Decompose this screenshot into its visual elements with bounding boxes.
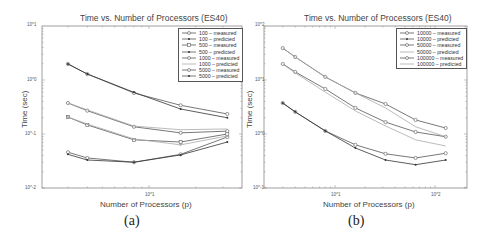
legend-item: 5000 – measured — [182, 67, 239, 73]
legend-item: 500 – measured — [182, 42, 239, 48]
chart-a-legend: 100 – measured 100 – predicted 500 – mea… — [178, 28, 243, 82]
chart-a-ytick: 10^0 — [27, 77, 37, 82]
legend-item: 10000 – predicted — [400, 36, 463, 42]
chart-a-caption: (a) — [124, 213, 140, 229]
chart-b-ytick: 10^2 — [255, 22, 265, 27]
chart-b-title: Time vs. Number of Processors (ES40) — [304, 13, 452, 23]
legend-item: 500 – predicted — [182, 49, 239, 55]
chart-a-xlabel: Number of Processors (p) — [100, 200, 192, 209]
line-marker-icon — [400, 61, 414, 67]
dot-marker-icon — [400, 36, 414, 42]
chart-a-ytick: 10^-2 — [25, 185, 36, 190]
legend-item: 50000 – predicted — [400, 49, 463, 55]
dot-marker-icon — [182, 49, 196, 55]
chart-a-xtick: 10^1 — [145, 192, 155, 197]
circle-marker-icon — [400, 55, 414, 61]
circle-marker-icon — [182, 30, 196, 36]
legend-item: 50000 – measured — [400, 42, 463, 48]
chart-b-ytick: 10^-1 — [253, 185, 264, 190]
line-marker-icon — [400, 49, 414, 55]
line-marker-icon — [182, 61, 196, 67]
chart-b-ytick: 10^0 — [255, 131, 265, 136]
legend-item: 5000 – predicted — [182, 73, 239, 79]
square-marker-icon — [182, 42, 196, 48]
chart-a-ytick: 10^-1 — [25, 131, 36, 136]
chart-a-ylabel: Time (sec) — [20, 91, 29, 128]
chart-b-xlabel: Number of Processors (p) — [323, 200, 415, 209]
legend-item: 100000 – measured — [400, 55, 463, 61]
legend-item: 100000 – predicted — [400, 61, 463, 67]
dot-marker-icon — [182, 36, 196, 42]
circle-marker-icon — [400, 42, 414, 48]
legend-item: 10000 – measured — [400, 30, 463, 36]
circle-marker-icon — [182, 55, 196, 61]
legend-item: 100 – predicted — [182, 36, 239, 42]
chart-b-caption: (b) — [348, 213, 364, 229]
panel-b: Time vs. Number of Processors (ES40) Tim… — [243, 0, 486, 236]
chart-b-legend: 10000 – measured 10000 – predicted 50000… — [396, 28, 467, 69]
chart-b-xtick: 10^2 — [431, 192, 441, 197]
circle-marker-icon — [182, 67, 196, 73]
chart-b-xtick: 10^1 — [331, 192, 341, 197]
legend-item: 1000 – predicted — [182, 61, 239, 67]
panel-a: Time vs. Number of Processors (ES40) Tim… — [0, 0, 243, 236]
dot-marker-icon — [182, 73, 196, 79]
chart-b-ytick: 10^1 — [255, 77, 265, 82]
chart-b-ylabel: Time (sec) — [245, 91, 254, 128]
chart-a-title: Time vs. Number of Processors (ES40) — [80, 13, 228, 23]
legend-item: 1000 – measured — [182, 55, 239, 61]
legend-item: 100 – measured — [182, 30, 239, 36]
chart-a-ytick: 10^1 — [27, 22, 37, 27]
circle-marker-icon — [400, 30, 414, 36]
